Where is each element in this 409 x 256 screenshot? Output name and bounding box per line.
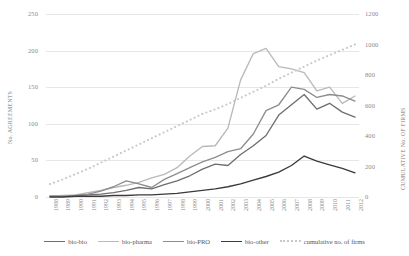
legend-item[interactable]: cumulative no. of firms xyxy=(280,238,365,245)
y-axis-right-tick-label: 1200 xyxy=(365,10,395,17)
x-axis-tick-label: 1994 xyxy=(129,199,135,211)
x-axis-tick-label: 2004 xyxy=(256,199,262,211)
y-axis-left-tick-label: 200 xyxy=(12,47,38,54)
series-line xyxy=(50,95,355,197)
series-lines xyxy=(46,14,359,197)
chart-legend: bio-biobio-pharmabio-PRObio-othercumulat… xyxy=(0,233,409,249)
series-line xyxy=(50,87,355,196)
legend-label: bio-PRO xyxy=(187,238,210,245)
x-axis-tick-label: 1988 xyxy=(53,199,59,211)
x-axis-tick-label: 2002 xyxy=(230,199,236,211)
y-axis-left-title: No. AGREEMENTS xyxy=(7,91,13,144)
x-axis-tick-label: 2011 xyxy=(345,199,351,211)
legend-swatch-bio-pro xyxy=(163,241,184,242)
gridline xyxy=(46,197,359,198)
legend-item[interactable]: bio-bio xyxy=(44,238,87,245)
x-axis-tick-label: 2000 xyxy=(205,199,211,211)
x-axis-tick-label: 1996 xyxy=(154,199,160,211)
legend-swatch-cumulative-no-of-firms xyxy=(280,240,301,242)
series-line xyxy=(50,48,355,196)
y-axis-left-tick-label: 100 xyxy=(12,120,38,127)
legend-item[interactable]: bio-other xyxy=(221,238,269,245)
legend-swatch-bio-pharma xyxy=(98,241,119,242)
x-axis-tick-label: 1997 xyxy=(167,199,173,211)
x-axis-tick-label: 2010 xyxy=(332,199,338,211)
x-axis-tick-label: 1998 xyxy=(180,199,186,211)
y-axis-right-tick-label: 1000 xyxy=(365,41,395,48)
x-axis-tick-label: 2012 xyxy=(358,199,364,211)
x-axis-ticks: 1988198919901991199219931994199519961997… xyxy=(46,199,359,229)
legend-label: cumulative no. of firms xyxy=(304,238,365,245)
x-axis-tick-label: 1993 xyxy=(116,199,122,211)
y-axis-right-tick-label: 400 xyxy=(365,132,395,139)
legend-label: bio-other xyxy=(245,238,269,245)
y-axis-left-tick-label: 0 xyxy=(12,193,38,200)
x-axis-tick-label: 2001 xyxy=(218,199,224,211)
x-axis-tick-label: 2008 xyxy=(307,199,313,211)
legend-item[interactable]: bio-pharma xyxy=(98,238,152,245)
x-axis-tick-label: 1990 xyxy=(78,199,84,211)
x-axis-tick-label: 1991 xyxy=(91,199,97,211)
y-axis-right-title: CUMULATIVE No. OF FIRMS xyxy=(400,107,406,190)
y-axis-left-tick-label: 150 xyxy=(12,83,38,90)
y-axis-left-tick-label: 50 xyxy=(12,156,38,163)
x-axis-tick-label: 2005 xyxy=(269,199,275,211)
chart-container: No. AGREEMENTS CUMULATIVE No. OF FIRMS 0… xyxy=(0,0,409,256)
plot-area xyxy=(46,14,359,197)
y-axis-right-tick-label: 200 xyxy=(365,163,395,170)
legend-label: bio-pharma xyxy=(122,238,152,245)
x-axis-tick-label: 1995 xyxy=(141,199,147,211)
legend-swatch-bio-other xyxy=(221,241,242,242)
x-axis-tick-label: 2003 xyxy=(243,199,249,211)
x-axis-tick-label: 1999 xyxy=(192,199,198,211)
y-axis-right-tick-label: 800 xyxy=(365,71,395,78)
y-axis-right-tick-label: 600 xyxy=(365,102,395,109)
x-axis-tick-label: 2006 xyxy=(281,199,287,211)
legend-swatch-bio-bio xyxy=(44,241,65,242)
series-line xyxy=(50,45,355,185)
x-axis-tick-label: 2007 xyxy=(294,199,300,211)
legend-item[interactable]: bio-PRO xyxy=(163,238,210,245)
x-axis-tick-label: 1992 xyxy=(103,199,109,211)
x-axis-tick-label: 2009 xyxy=(319,199,325,211)
x-axis-tick-label: 1989 xyxy=(65,199,71,211)
legend-label: bio-bio xyxy=(68,238,87,245)
y-axis-left-tick-label: 250 xyxy=(12,10,38,17)
y-axis-right-tick-label: 0 xyxy=(365,193,395,200)
